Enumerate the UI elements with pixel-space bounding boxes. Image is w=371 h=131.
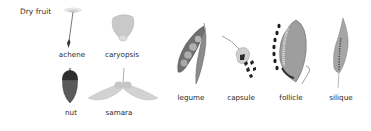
fruit-label-caryopsis: caryopsis [105, 50, 139, 59]
silique-icon [328, 18, 354, 90]
fruit-label-nut: nut [65, 108, 77, 117]
caryopsis-icon [108, 12, 138, 44]
samara-icon [86, 68, 160, 106]
diagram-title: Dry fruit [20, 7, 51, 16]
follicle-icon [268, 16, 314, 88]
fruit-label-capsule: capsule [227, 93, 255, 102]
capsule-icon [220, 30, 264, 82]
fruit-label-silique: silique [329, 93, 352, 102]
fruit-label-samara: samara [106, 108, 133, 117]
fruit-label-achene: achene [59, 50, 85, 59]
fruit-label-legume: legume [178, 93, 205, 102]
fruit-label-follicle: follicle [279, 93, 302, 102]
legume-icon [172, 22, 212, 88]
nut-icon [60, 68, 80, 105]
achene-icon [58, 6, 88, 50]
